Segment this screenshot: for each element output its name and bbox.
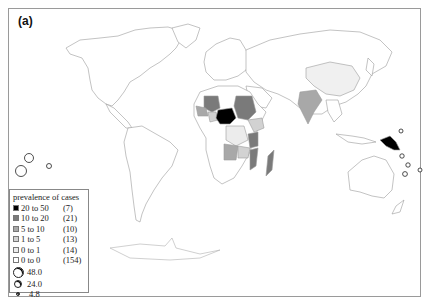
legend-count: (14) [63,245,77,256]
legend-count: (10) [63,224,77,235]
bubble-pacific-2 [16,166,27,177]
madagascar [266,150,274,176]
mozambique [250,148,258,170]
angola [224,144,238,160]
bubble-pacific-8 [418,168,422,172]
legend-swatch [13,215,19,221]
legend-swatch [13,205,19,211]
new-zealand [392,200,404,214]
bubble-icon [16,292,20,296]
legend-swatch [13,247,19,253]
legend-class-row: 5 to 10 (10) [13,224,85,235]
legend-bubble-row: 24.0 [13,279,85,290]
legend-class-row: 0 to 1 (14) [13,245,85,256]
legend-count: (13) [63,234,77,245]
south-america [124,126,178,222]
tanzania [248,132,258,148]
bubble-pacific-7 [403,172,408,177]
bubble-icon [14,280,22,288]
bubble-pacific-5 [400,154,404,158]
legend-class-row: 0 to 0 (154) [13,255,85,266]
legend-bubble-label: 48.0 [27,267,42,278]
map-legend: prevalence of cases 20 to 50 (7) 10 to 2… [9,189,89,293]
legend-range: 1 to 5 [21,234,63,245]
legend-class-row: 20 to 50 (7) [13,203,85,214]
legend-range: 10 to 20 [21,213,63,224]
legend-range: 0 to 1 [21,245,63,256]
legend-bubble-label: 4.8 [29,289,40,300]
legend-bubble-row: 48.0 [13,266,85,279]
legend-swatch [13,226,19,232]
legend-class-row: 10 to 20 (21) [13,213,85,224]
legend-range: 0 to 0 [21,255,63,266]
antarctica [110,238,220,260]
bubble-pacific-6 [406,163,410,167]
legend-swatch [13,257,19,263]
central-america [106,104,132,128]
panel-label: (a) [18,14,33,28]
legend-count: (154) [63,255,81,266]
legend-range: 5 to 10 [21,224,63,235]
bubble-icon [13,267,24,278]
legend-count: (21) [63,213,77,224]
zambia [238,146,250,158]
legend-bubble-row: 4.8 [13,290,85,299]
australia [348,156,394,198]
indonesia [336,134,376,144]
legend-bubble-label: 24.0 [27,279,42,290]
papua-new-guinea [380,136,400,150]
legend-class-row: 1 to 5 (13) [13,234,85,245]
legend-range: 20 to 50 [21,203,63,214]
legend-title: prevalence of cases [13,192,85,203]
legend-count: (7) [63,203,73,214]
bubble-pacific-1 [25,154,34,163]
bubble-pacific-3 [47,164,52,169]
north-america [66,27,182,106]
legend-swatch [13,236,19,242]
europe [204,38,250,80]
bubble-pacific-4 [399,129,403,133]
